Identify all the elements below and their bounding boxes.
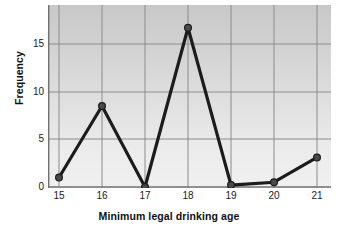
x-tick-label: 17 [130, 190, 160, 202]
x-tick-label: 16 [87, 190, 117, 202]
plot-svg [48, 5, 331, 188]
x-axis-tick-labels: 15 16 17 18 19 20 21 [0, 190, 338, 206]
y-tick-label: 10 [22, 87, 44, 97]
y-tick-label: 5 [22, 134, 44, 144]
data-point [314, 154, 321, 161]
data-point [185, 24, 192, 31]
y-axis-tick-labels: 0 5 10 15 [18, 0, 44, 195]
x-tick-label: 19 [216, 190, 246, 202]
x-tick-label: 18 [173, 190, 203, 202]
data-point [271, 179, 278, 186]
data-point [142, 184, 149, 188]
plot-area [48, 5, 331, 188]
x-tick-label: 20 [259, 190, 289, 202]
data-point [228, 182, 235, 188]
x-tick-label: 21 [302, 190, 332, 202]
data-point [99, 103, 106, 110]
y-tick-label: 15 [22, 39, 44, 49]
x-tick-label: 15 [44, 190, 74, 202]
x-axis-title: Minimum legal drinking age [0, 210, 338, 222]
data-point [56, 174, 63, 181]
chart-container: Frequency 0 5 10 15 [0, 0, 338, 229]
